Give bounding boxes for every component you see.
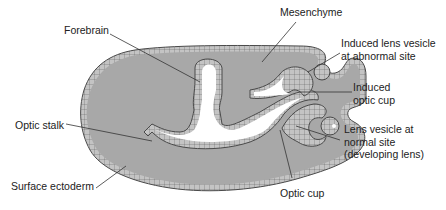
label-mesenchyme: Mesenchyme	[280, 6, 342, 19]
label-lens-vesicle-normal: Lens vesicle at normal site (developing …	[344, 123, 424, 161]
label-forebrain: Forebrain	[64, 24, 109, 37]
label-optic-stalk: Optic stalk	[15, 119, 64, 132]
label-surface-ectoderm: Surface ectoderm	[11, 180, 94, 193]
normal-lens-vesicle	[321, 117, 339, 135]
lens-lumen	[332, 124, 336, 128]
label-induced-optic-cup: Induced optic cup	[353, 81, 395, 106]
label-induced-lens-vesicle: Induced lens vesicle at abnormal site	[341, 37, 436, 62]
label-optic-cup: Optic cup	[280, 187, 324, 200]
induced-lens-vesicle	[314, 64, 330, 80]
